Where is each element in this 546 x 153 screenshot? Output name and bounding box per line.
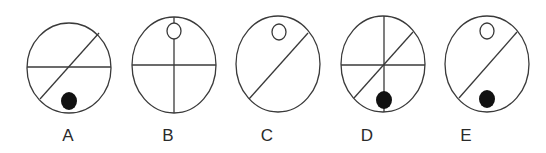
filled-dot-icon <box>61 92 77 110</box>
option-label-d: D <box>361 126 373 145</box>
filled-dot-icon <box>376 91 392 109</box>
option-label-c: C <box>261 126 273 145</box>
option-figure-a[interactable] <box>27 23 111 113</box>
diagonal-line <box>459 32 517 98</box>
option-label-e: E <box>460 126 471 145</box>
open-circle-icon <box>480 23 494 39</box>
option-label-b: B <box>162 126 173 145</box>
diagonal-line <box>249 33 308 99</box>
option-figure-d[interactable] <box>341 16 425 112</box>
option-figure-e[interactable] <box>445 16 529 112</box>
option-label-a: A <box>62 126 74 145</box>
open-circle-icon <box>167 23 181 39</box>
option-figure-b[interactable] <box>132 17 216 113</box>
option-figure-c[interactable] <box>236 16 320 112</box>
diagram-canvas: A B C D E <box>0 0 546 153</box>
option-labels: A B C D E <box>62 126 471 145</box>
option-figures <box>27 16 529 113</box>
diagonal-line <box>40 33 99 99</box>
open-circle-icon <box>272 24 286 40</box>
filled-dot-icon <box>479 90 495 108</box>
